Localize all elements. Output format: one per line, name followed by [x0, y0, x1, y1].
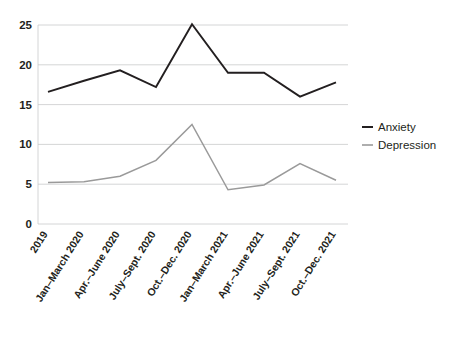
- y-tick-label: 25: [19, 19, 32, 31]
- line-chart: 2520151050 2019Jan–March 2020Apr.–June 2…: [0, 0, 450, 341]
- y-tick-label: 5: [26, 178, 33, 190]
- x-axis-tick-labels: 2019Jan–March 2020Apr.–June 2020July–Sep…: [27, 229, 338, 304]
- y-tick-label: 10: [19, 138, 32, 150]
- legend-label-depression: Depression: [378, 139, 436, 151]
- gridlines: [38, 25, 348, 224]
- x-tick-label: 2019: [27, 229, 50, 255]
- chart-canvas: 2520151050 2019Jan–March 2020Apr.–June 2…: [0, 0, 450, 341]
- y-tick-label: 0: [26, 218, 32, 230]
- y-tick-label: 20: [19, 59, 32, 71]
- data-series-group: [48, 24, 336, 190]
- series-line-depression: [48, 125, 336, 190]
- y-axis-tick-labels: 2520151050: [19, 19, 32, 230]
- y-tick-label: 15: [19, 99, 32, 111]
- chart-legend: AnxietyDepression: [362, 121, 436, 151]
- series-line-anxiety: [48, 24, 336, 96]
- legend-label-anxiety: Anxiety: [378, 121, 416, 133]
